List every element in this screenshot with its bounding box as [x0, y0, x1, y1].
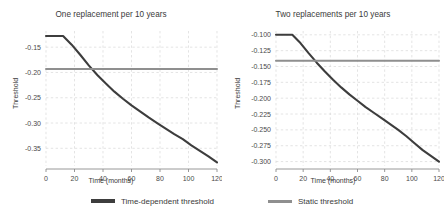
- legend-item-time-dependent: Time-dependent threshold: [91, 197, 214, 206]
- svg-text:-0.175: -0.175: [251, 79, 271, 86]
- legend-swatch-icon: [268, 200, 292, 203]
- legend-label: Static threshold: [298, 197, 353, 206]
- svg-text:-0.20: -0.20: [25, 69, 41, 76]
- svg-text:-0.150: -0.150: [251, 63, 271, 70]
- svg-text:-0.250: -0.250: [251, 126, 271, 133]
- plot-area: -0.100-0.125-0.150-0.175-0.200-0.225-0.2…: [222, 0, 444, 186]
- svg-text:-0.30: -0.30: [25, 120, 41, 127]
- svg-text:-0.25: -0.25: [25, 94, 41, 101]
- legend-swatch-icon: [91, 199, 115, 202]
- panel-row: One replacement per 10 years Threshold -…: [0, 0, 444, 186]
- panel-one-replacement: One replacement per 10 years Threshold -…: [0, 0, 222, 186]
- svg-text:-0.100: -0.100: [251, 31, 271, 38]
- legend-label: Time-dependent threshold: [121, 197, 214, 206]
- svg-text:-0.275: -0.275: [251, 142, 271, 149]
- figure: One replacement per 10 years Threshold -…: [0, 0, 444, 216]
- x-axis-label: Time (months): [222, 177, 444, 184]
- svg-text:-0.125: -0.125: [251, 47, 271, 54]
- legend-item-static: Static threshold: [268, 197, 353, 206]
- x-axis-label: Time (months): [0, 177, 222, 184]
- panel-two-replacements: Two replacements per 10 years Threshold …: [222, 0, 444, 186]
- legend: Time-dependent threshold Static threshol…: [0, 186, 444, 216]
- svg-text:-0.200: -0.200: [251, 95, 271, 102]
- svg-text:-0.15: -0.15: [25, 44, 41, 51]
- svg-text:-0.300: -0.300: [251, 158, 271, 165]
- plot-area: -0.15-0.20-0.25-0.30-0.35020406080100120: [0, 0, 222, 186]
- svg-text:-0.225: -0.225: [251, 111, 271, 118]
- svg-text:-0.35: -0.35: [25, 145, 41, 152]
